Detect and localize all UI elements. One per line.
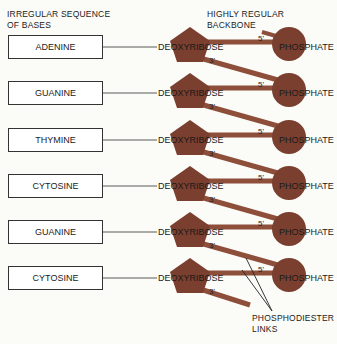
phosphate-label: PHOSPHATE <box>279 88 334 98</box>
three-prime-label: 3' <box>209 241 215 250</box>
base-box-thymine: THYMINE <box>8 128 103 152</box>
deoxyribose-label: DEOXYRIBOSE <box>158 227 224 237</box>
three-prime-label: 3' <box>209 287 215 296</box>
base-label: ADENINE <box>35 42 75 52</box>
base-label: CYTOSINE <box>33 181 79 191</box>
links-line2: LINKS <box>252 324 334 335</box>
deoxyribose-label: DEOXYRIBOSE <box>158 273 224 283</box>
deoxyribose-pentagons <box>170 27 210 293</box>
deoxyribose-label: DEOXYRIBOSE <box>158 135 224 145</box>
base-label: CYTOSINE <box>33 273 79 283</box>
phosphate-circles <box>272 27 306 292</box>
phosphodiester-links-label: PHOSPHODIESTER LINKS <box>252 313 334 335</box>
base-box-adenine: ADENINE <box>8 35 103 59</box>
base-connectors <box>103 47 157 278</box>
base-box-cytosine-2: CYTOSINE <box>8 266 103 290</box>
five-prime-label: 5' <box>258 265 264 274</box>
base-box-guanine-2: GUANINE <box>8 220 103 244</box>
deoxyribose-label: DEOXYRIBOSE <box>158 42 224 52</box>
phosphate-label: PHOSPHATE <box>279 42 334 52</box>
five-prime-label: 5' <box>258 127 264 136</box>
three-prime-label: 3' <box>209 195 215 204</box>
three-prime-label: 3' <box>209 102 215 111</box>
phosphate-label: PHOSPHATE <box>279 227 334 237</box>
base-label: THYMINE <box>35 135 76 145</box>
five-prime-label: 5' <box>258 34 264 43</box>
deoxyribose-label: DEOXYRIBOSE <box>158 181 224 191</box>
five-prime-label: 5' <box>258 80 264 89</box>
phosphate-label: PHOSPHATE <box>279 135 334 145</box>
base-box-cytosine: CYTOSINE <box>8 174 103 198</box>
base-label: GUANINE <box>35 88 76 98</box>
sugar-phosphate-sticks <box>200 42 285 305</box>
three-prime-label: 3' <box>209 56 215 65</box>
phosphate-label: PHOSPHATE <box>279 273 334 283</box>
deoxyribose-label: DEOXYRIBOSE <box>158 88 224 98</box>
five-prime-label: 5' <box>258 219 264 228</box>
links-line1: PHOSPHODIESTER <box>252 313 334 324</box>
base-box-guanine: GUANINE <box>8 81 103 105</box>
base-label: GUANINE <box>35 227 76 237</box>
three-prime-label: 3' <box>209 149 215 158</box>
five-prime-label: 5' <box>258 173 264 182</box>
phosphate-label: PHOSPHATE <box>279 181 334 191</box>
